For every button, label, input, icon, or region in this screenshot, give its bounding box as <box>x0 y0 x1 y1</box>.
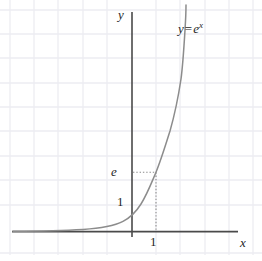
x-axis-label: x <box>240 236 246 249</box>
equation-exponent: x <box>199 20 203 30</box>
equation-operator: = <box>184 21 193 36</box>
x-tick-label-one: 1 <box>150 235 157 248</box>
y-tick-label-e: e <box>111 165 117 178</box>
exponential-curve <box>13 5 186 231</box>
exponential-function-figure: y x e 1 1 y=ex <box>0 0 262 261</box>
axes <box>12 12 238 237</box>
plot-canvas <box>0 0 262 261</box>
y-axis-label: y <box>118 8 124 21</box>
curve-equation-label: y=ex <box>178 22 203 35</box>
y-tick-label-one: 1 <box>117 195 124 208</box>
equation-lhs: y <box>178 21 184 36</box>
